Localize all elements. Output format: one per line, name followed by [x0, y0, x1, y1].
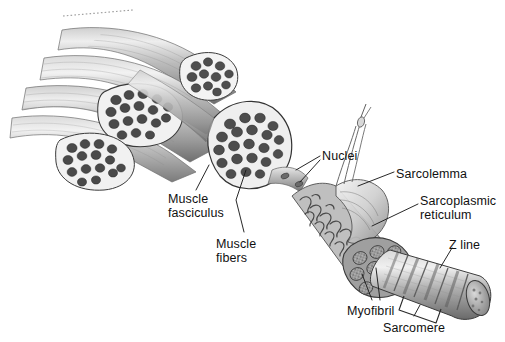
- muscle-anatomy-figure: Muscle fasciculus Muscle fibers Nuclei S…: [0, 0, 505, 342]
- label-nuclei: Nuclei: [322, 150, 357, 164]
- label-sarcomere: Sarcomere: [383, 322, 445, 336]
- label-muscle-fasciculus: Muscle fasciculus: [168, 193, 224, 220]
- label-z-line: Z line: [449, 239, 480, 253]
- label-sarcoplasmic-reticulum: Sarcoplasmic reticulum: [420, 195, 496, 222]
- label-sarcolemma: Sarcolemma: [396, 168, 467, 182]
- label-myofibril: Myofibril: [347, 305, 394, 319]
- label-muscle-fibers: Muscle fibers: [216, 238, 256, 265]
